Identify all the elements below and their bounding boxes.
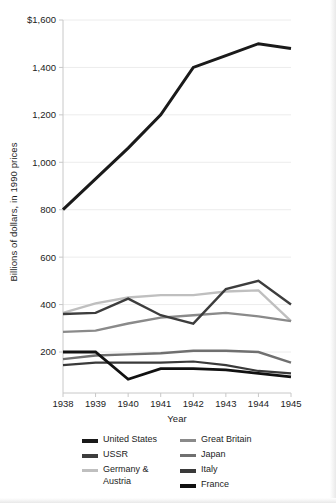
legend-item-label: USSR [103,449,128,461]
y-axis-tick-labels: 2004006008001,0001,2001,400$1,600 [27,14,56,357]
y-axis-tick-label: 1,200 [32,109,56,120]
x-axis-tick-label: 1943 [215,398,236,409]
series-line [63,313,291,332]
chart-figure: 2004006008001,0001,2001,400$1,600 193819… [0,0,336,503]
legend-item[interactable]: Italy [180,464,290,477]
legend-item[interactable]: France [180,479,290,492]
x-axis-title: Year [63,413,291,424]
series-lines [63,44,291,380]
series-line [63,44,291,210]
legend-swatch-icon [180,484,196,488]
x-axis-tick-label: 1942 [183,398,204,409]
x-axis-tick-label: 1941 [150,398,171,409]
legend-item[interactable]: Japan [180,449,290,462]
legend-item-label: Germany & Austria [103,464,149,487]
legend-swatch-icon [82,469,98,472]
y-axis-tick-label: 1,400 [32,62,56,73]
legend-swatch-icon [82,439,98,443]
y-axis-tick-label: 800 [40,204,56,215]
legend-item-label: United States [103,434,157,446]
x-axis-tick-label: 1938 [52,398,73,409]
legend-item[interactable]: Great Britain [180,434,290,447]
axis-lines [59,20,291,397]
y-axis-tick-label: 600 [40,252,56,263]
legend-column-left: United StatesUSSRGermany & Austria [82,434,178,489]
legend-item-label: Italy [201,464,218,476]
chart-legend: United StatesUSSRGermany & Austria Great… [0,434,336,496]
y-axis-tick-label: 400 [40,299,56,310]
legend-item[interactable]: Germany & Austria [82,464,178,487]
legend-item[interactable]: United States [82,434,178,447]
legend-swatch-icon [82,454,98,458]
line-chart-svg: 2004006008001,0001,2001,400$1,600 193819… [0,0,336,430]
legend-item-label: Japan [201,449,226,461]
y-axis-tick-label: 200 [40,346,56,357]
legend-item-label: Great Britain [201,434,252,446]
page-edge-bottom [0,498,336,503]
y-axis-title-text: Billions of dollars, in 1990 prices [8,112,19,312]
plot-area: 2004006008001,0001,2001,400$1,600 193819… [0,0,336,430]
page-edge-right [330,0,336,503]
legend-swatch-icon [180,454,196,457]
y-axis-tick-label: $1,600 [27,14,56,25]
legend-column-right: Great BritainJapanItalyFrance [180,434,290,494]
legend-item-label: France [201,479,229,491]
x-axis-tick-labels: 19381939194019411942194319441945 [52,398,301,409]
legend-swatch-icon [180,439,196,442]
y-axis-tick-label: 1,000 [32,157,56,168]
x-axis-tick-label: 1939 [85,398,106,409]
x-axis-tick-label: 1940 [118,398,139,409]
legend-swatch-icon [180,469,196,473]
x-axis-tick-label: 1944 [248,398,269,409]
y-axis-title: Billions of dollars, in 1990 prices [8,112,19,312]
x-axis-tick-label: 1945 [280,398,301,409]
legend-item[interactable]: USSR [82,449,178,462]
